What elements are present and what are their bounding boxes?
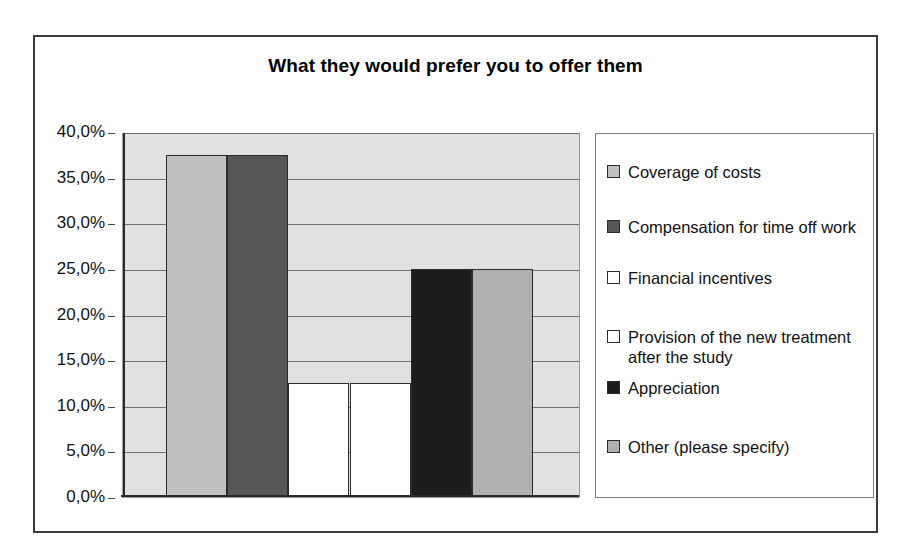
y-axis-tick-label: 35,0% xyxy=(57,168,105,188)
legend-item[interactable]: Other (please specify) xyxy=(607,437,867,457)
y-axis-tick-mark xyxy=(108,498,115,499)
legend-item-label: Other (please specify) xyxy=(628,437,789,457)
legend-item[interactable]: Provision of the new treatment after the… xyxy=(607,327,867,367)
y-axis-tick-label: 0,0% xyxy=(66,487,105,507)
chart-legend: Coverage of costsCompensation for time o… xyxy=(595,133,874,498)
y-axis-tick-label: 40,0% xyxy=(57,122,105,142)
y-axis-tick-mark xyxy=(108,316,115,317)
y-axis-tick-mark xyxy=(108,133,115,134)
x-axis-baseline xyxy=(121,495,579,497)
legend-item-label: Appreciation xyxy=(628,378,720,398)
bar xyxy=(411,269,472,497)
legend-item[interactable]: Compensation for time off work xyxy=(607,217,867,237)
legend-item[interactable]: Appreciation xyxy=(607,378,867,398)
y-axis-tick-label: 20,0% xyxy=(57,305,105,325)
y-axis: 40,0%35,0%30,0%25,0%20,0%15,0%10,0%5,0%0… xyxy=(35,133,115,498)
y-axis-tick-mark xyxy=(108,452,115,453)
bar xyxy=(288,383,349,497)
bar xyxy=(350,383,411,497)
y-axis-tick-mark xyxy=(108,407,115,408)
y-axis-tick-mark xyxy=(108,361,115,362)
y-axis-tick-mark xyxy=(108,270,115,271)
y-axis-tick-mark xyxy=(108,224,115,225)
legend-swatch-icon xyxy=(607,165,620,178)
legend-swatch-icon xyxy=(607,440,620,453)
bar xyxy=(472,269,533,497)
legend-item-label: Compensation for time off work xyxy=(628,217,856,237)
chart-frame: What they would prefer you to offer them… xyxy=(33,35,878,533)
plot-area xyxy=(122,133,580,498)
legend-item[interactable]: Coverage of costs xyxy=(607,162,867,182)
legend-swatch-icon xyxy=(607,271,620,284)
bars-layer xyxy=(123,133,579,497)
legend-item-label: Provision of the new treatment after the… xyxy=(628,327,867,367)
y-axis-tick-label: 30,0% xyxy=(57,213,105,233)
y-axis-line xyxy=(123,133,125,497)
legend-item[interactable]: Financial incentives xyxy=(607,268,867,288)
legend-swatch-icon xyxy=(607,330,620,343)
y-axis-tick-label: 25,0% xyxy=(57,259,105,279)
chart-title: What they would prefer you to offer them xyxy=(35,55,876,77)
legend-swatch-icon xyxy=(607,220,620,233)
legend-swatch-icon xyxy=(607,381,620,394)
bar xyxy=(227,155,288,497)
bar xyxy=(166,155,227,497)
y-axis-tick-mark xyxy=(108,179,115,180)
y-axis-tick-label: 10,0% xyxy=(57,396,105,416)
y-axis-tick-label: 5,0% xyxy=(66,441,105,461)
legend-item-label: Financial incentives xyxy=(628,268,772,288)
legend-item-label: Coverage of costs xyxy=(628,162,761,182)
y-axis-tick-label: 15,0% xyxy=(57,350,105,370)
